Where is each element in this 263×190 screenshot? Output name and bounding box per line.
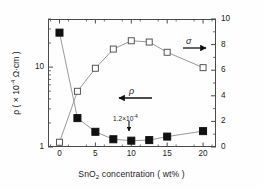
rho-annotation-label: ρ: [129, 86, 134, 96]
left-axis-symbol: ρ: [11, 110, 21, 115]
sigma-data-point: [164, 49, 170, 55]
left-axis-close: Ω·cm ): [11, 51, 21, 79]
minimum-value-annotation: 1.2×10-4: [113, 113, 138, 122]
min-value-exponent: -4: [133, 113, 137, 119]
right-tick-label: 10: [221, 15, 239, 23]
x-axis-title-suffix: concentration ( wt% ): [99, 169, 184, 179]
rho-data-point: [56, 29, 63, 36]
right-tick-label: 8: [221, 40, 239, 48]
rho-data-point: [200, 128, 207, 135]
sigma-data-point: [110, 46, 116, 52]
x-tick-label: 5: [93, 150, 98, 158]
x-tick-label: 10: [127, 150, 136, 158]
sigma-data-point: [74, 88, 80, 94]
sigma-data-point: [200, 65, 206, 71]
x-tick-label: 15: [163, 150, 172, 158]
sigma-annotation-label: σ: [186, 36, 191, 46]
min-value-mantissa: 1.2×10: [113, 115, 133, 122]
rho-data-point: [110, 136, 117, 143]
left-axis-exponent: -4: [9, 80, 16, 86]
left-tick-label: 10: [26, 63, 44, 71]
rho-data-point: [146, 137, 153, 144]
chart-figure: 05101520 110 0246810 SnO2 concentration …: [0, 0, 263, 190]
rho-data-point: [128, 137, 135, 144]
x-axis-title: SnO2 concentration ( wt% ): [0, 169, 263, 180]
rho-data-point: [92, 128, 99, 135]
right-tick-label: 2: [221, 117, 239, 125]
rho-data-point: [164, 133, 171, 140]
right-tick-label: 0: [221, 143, 239, 151]
right-tick-label: 4: [221, 92, 239, 100]
left-axis-title: ρ ( × 10-4 Ω·cm ): [6, 19, 20, 147]
x-tick-label: 0: [57, 150, 62, 158]
rho-data-point: [74, 115, 81, 122]
sigma-data-point: [56, 139, 62, 145]
left-axis-open: ( × 10: [11, 85, 21, 110]
sigma-data-point: [146, 39, 152, 45]
x-axis-title-prefix: SnO: [78, 169, 96, 179]
right-tick-label: 6: [221, 66, 239, 74]
left-tick-label: 1: [26, 143, 44, 151]
sigma-data-point: [92, 65, 98, 71]
x-tick-label: 20: [199, 150, 208, 158]
sigma-data-point: [128, 38, 134, 44]
